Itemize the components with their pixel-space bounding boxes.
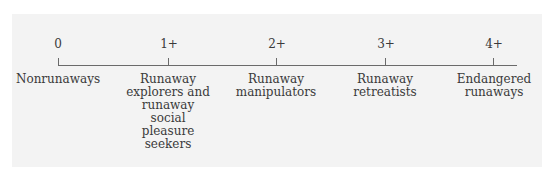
tick-mark-0 [58,58,59,66]
tick-value-3: 3+ [366,37,406,51]
category-label-nonrunaways: Nonrunaways [3,73,113,86]
tick-mark-1 [168,58,169,66]
tick-value-0: 0 [38,37,78,51]
category-label-manipulators: Runaway manipulators [221,73,331,99]
category-label-retreatists: Runaway retreatists [330,73,440,99]
tick-mark-3 [385,58,386,66]
tick-mark-4 [493,58,494,66]
tick-value-4: 4+ [474,37,514,51]
tick-value-1: 1+ [149,37,189,51]
tick-value-2: 2+ [257,37,297,51]
scale-axis-line [58,65,517,66]
category-label-explorers: Runaway explorers and runaway social ple… [113,73,223,151]
tick-mark-2 [276,58,277,66]
category-label-endangered: Endangered runaways [439,73,549,99]
